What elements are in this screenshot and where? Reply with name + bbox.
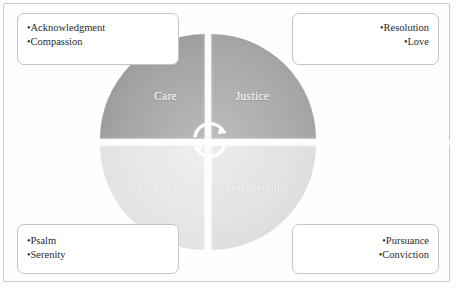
callout-bottom-left[interactable]: •Psalm •Serenity — [17, 224, 179, 274]
callout-top-right[interactable]: •Resolution •Love — [292, 13, 439, 65]
callout-item: •Pursuance — [302, 234, 429, 248]
quadrant-label-conviction: Conviction — [100, 181, 205, 193]
quadrant-label-care: Care — [100, 90, 205, 102]
callout-item: •Acknowledgment — [27, 21, 169, 35]
callout-item-label: Pursuance — [386, 235, 429, 246]
callout-item-label: Psalm — [31, 235, 57, 246]
quadrant-label-justice: Justice — [211, 90, 316, 102]
callout-item: •Love — [302, 35, 429, 49]
callout-item-label: Love — [407, 36, 429, 47]
callout-item-label: Compassion — [31, 36, 83, 47]
callout-item-label: Conviction — [382, 249, 429, 260]
callout-item-label: Serenity — [31, 249, 66, 260]
quadrant-label-responsibility: Responsibility — [211, 181, 316, 192]
callout-item: •Psalm — [27, 234, 169, 248]
callout-item-label: Acknowledgment — [31, 22, 106, 33]
callout-top-left[interactable]: •Acknowledgment •Compassion — [17, 13, 179, 65]
callout-item: •Resolution — [302, 21, 429, 35]
callout-bottom-right[interactable]: •Pursuance •Conviction — [292, 224, 439, 274]
callout-item: •Conviction — [302, 248, 429, 262]
callout-item: •Compassion — [27, 35, 169, 49]
callout-item-label: Resolution — [383, 22, 429, 33]
cycle-arrows-icon — [186, 108, 234, 172]
callout-item: •Serenity — [27, 248, 169, 262]
diagram-canvas: Care Justice Conviction Responsibility •… — [0, 0, 456, 288]
